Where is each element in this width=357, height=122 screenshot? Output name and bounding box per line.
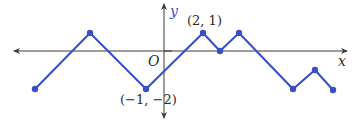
point (312, 67, 318, 73)
graph: y x O (2, 1) (−1, −2) (0, 0, 357, 122)
data-points (32, 30, 336, 93)
point (236, 30, 242, 36)
point-label-minus1-minus2: (−1, −2) (120, 92, 177, 107)
point-label-2-1: (2, 1) (187, 13, 222, 28)
origin-label: O (148, 53, 160, 69)
x-axis-label: x (338, 53, 346, 69)
point-endpoint-right (330, 87, 336, 93)
point (290, 86, 296, 92)
graph-curve (35, 33, 333, 90)
point (87, 30, 93, 36)
y-axis-label: y (169, 3, 179, 19)
point-2-1 (200, 30, 206, 36)
point (217, 48, 223, 54)
point-endpoint-left (32, 86, 38, 92)
